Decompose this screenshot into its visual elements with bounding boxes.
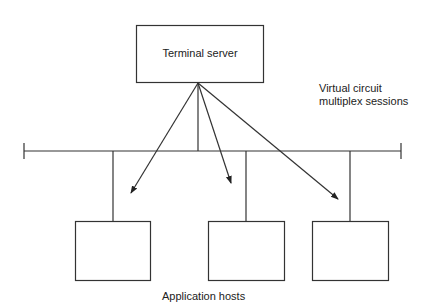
annotation-line-1: Virtual circuit — [319, 82, 382, 95]
host-2-box — [209, 222, 285, 281]
session-arrow-3 — [198, 83, 338, 199]
annotation-line-2: multiplex sessions — [319, 95, 408, 108]
terminal-server-label: Terminal server — [136, 47, 264, 60]
session-arrow-1 — [131, 83, 198, 193]
host-3-box — [313, 222, 389, 281]
session-arrow-2 — [198, 83, 231, 183]
hosts-label: Application hosts — [162, 290, 245, 303]
host-1-box — [76, 222, 151, 281]
